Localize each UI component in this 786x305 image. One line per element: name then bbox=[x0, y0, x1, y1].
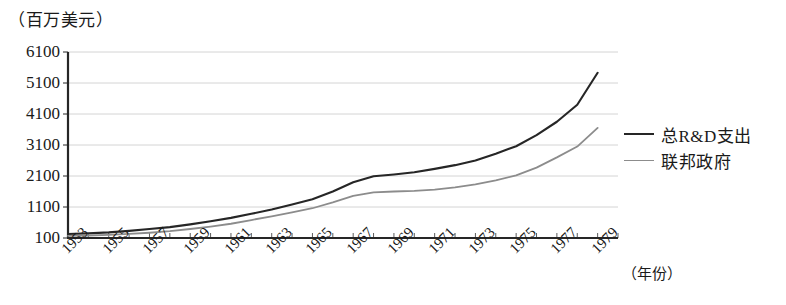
chart-container: （百万美元） 100110021003100410051006100 19531… bbox=[0, 0, 786, 305]
series-line-1 bbox=[68, 73, 598, 234]
y-tick-label: 5100 bbox=[2, 74, 60, 91]
legend-line-icon bbox=[624, 160, 654, 161]
legend-label: 联邦政府 bbox=[661, 148, 731, 173]
x-axis-title: （年份） bbox=[622, 262, 682, 283]
y-tick-label: 3100 bbox=[2, 136, 60, 153]
chart-legend: 总R&D支出联邦政府 bbox=[624, 121, 752, 173]
legend-line-icon bbox=[624, 133, 654, 135]
y-tick-label: 6100 bbox=[2, 43, 60, 60]
y-tick-label: 2100 bbox=[2, 167, 60, 184]
y-tick-label: 4100 bbox=[2, 105, 60, 122]
y-tick-label: 100 bbox=[2, 229, 60, 246]
y-tick-label: 1100 bbox=[2, 198, 60, 215]
series-lines bbox=[68, 73, 598, 236]
legend-item: 总R&D支出 bbox=[624, 121, 752, 147]
legend-item: 联邦政府 bbox=[624, 147, 752, 173]
legend-label: 总R&D支出 bbox=[661, 122, 752, 147]
gridlines bbox=[68, 52, 618, 207]
